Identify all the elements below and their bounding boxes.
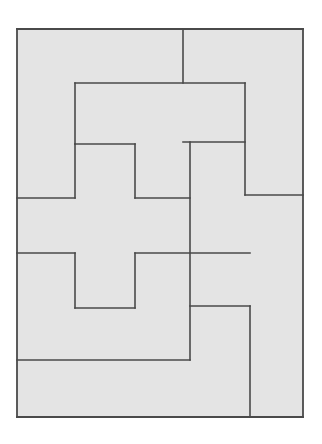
piece-bottom-strip: [17, 360, 250, 417]
piece-right-middle: [190, 142, 250, 306]
figure-canvas: [0, 0, 322, 444]
piece-fill-layer: [17, 29, 303, 417]
rectangle-partition-figure: [0, 0, 322, 444]
piece-right-lower: [250, 195, 303, 417]
